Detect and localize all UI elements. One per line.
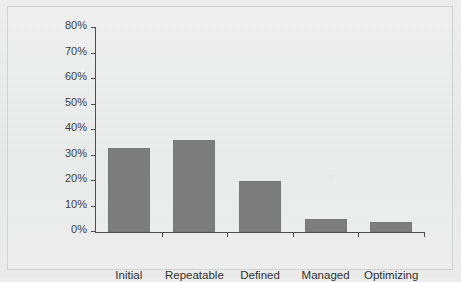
y-axis-tick-mark	[91, 53, 96, 54]
y-axis-tick-label: 60%	[65, 71, 87, 82]
y-axis-tick-label: 30%	[65, 148, 87, 159]
bar	[239, 181, 281, 232]
bar	[108, 148, 150, 232]
y-axis-tick-label: 10%	[65, 199, 87, 210]
y-axis-tick-label: 0%	[71, 224, 87, 235]
plot-area: 0%10%20%30%40%50%60%70%80% InitialRepeat…	[96, 28, 424, 232]
x-axis-tick-mark	[162, 232, 163, 237]
y-axis-tick-mark	[91, 180, 96, 181]
bar	[370, 222, 412, 232]
y-axis-tick-mark	[91, 155, 96, 156]
y-axis-tick-label: 80%	[65, 20, 87, 31]
y-axis-tick-mark	[91, 206, 96, 207]
x-axis-category-label: Repeatable	[165, 269, 224, 282]
x-axis-tick-mark	[358, 232, 359, 237]
y-axis-tick-mark	[91, 104, 96, 105]
x-axis-category-label: Defined	[240, 269, 280, 282]
y-axis-tick-label: 40%	[65, 122, 87, 133]
bar	[305, 219, 347, 232]
bar	[173, 140, 215, 232]
x-axis-category-label: Optimizing	[364, 269, 418, 282]
x-axis-tick-mark	[293, 232, 294, 237]
y-axis-tick-label: 70%	[65, 46, 87, 57]
x-axis-tick-mark	[227, 232, 228, 237]
x-axis-category-label: Initial	[115, 269, 142, 282]
y-axis-tick-mark	[91, 129, 96, 130]
y-axis-tick-label: 50%	[65, 97, 87, 108]
x-axis-line	[95, 232, 425, 233]
x-axis-tick-mark	[424, 232, 425, 237]
y-axis-tick-mark	[91, 231, 96, 232]
x-axis-category-label: Managed	[302, 269, 350, 282]
y-axis-tick-mark	[91, 27, 96, 28]
y-axis-tick-mark	[91, 78, 96, 79]
y-axis-tick-label: 20%	[65, 173, 87, 184]
